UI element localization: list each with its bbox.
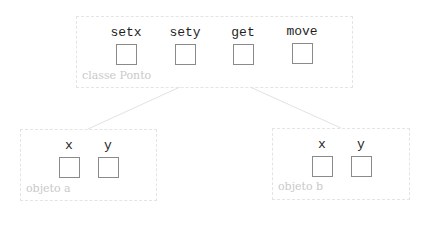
method-slot	[233, 44, 254, 65]
field-label: x	[49, 139, 89, 153]
method-sety: sety	[165, 26, 205, 65]
field-slot	[59, 157, 80, 178]
method-label: sety	[165, 26, 205, 40]
object-a-caption: objeto a	[26, 182, 71, 195]
method-slot	[175, 44, 196, 65]
object-b-caption: objeto b	[278, 180, 323, 193]
method-label: get	[223, 26, 263, 40]
class-caption: classe Ponto	[82, 69, 151, 82]
method-label: setx	[106, 26, 146, 40]
method-get: get	[223, 26, 263, 65]
field-y-object-a: y	[88, 139, 128, 178]
field-slot	[312, 156, 333, 177]
field-y-object-b: y	[341, 138, 381, 177]
method-move: move	[282, 25, 322, 64]
link-class-to-object-b	[250, 87, 341, 128]
method-slot	[116, 44, 137, 65]
method-setx: setx	[106, 26, 146, 65]
field-slot	[98, 157, 119, 178]
field-label: x	[302, 138, 342, 152]
field-label: y	[88, 139, 128, 153]
method-slot	[292, 43, 313, 64]
field-x-object-a: x	[49, 139, 89, 178]
link-class-to-object-a	[88, 87, 180, 129]
field-x-object-b: x	[302, 138, 342, 177]
field-slot	[351, 156, 372, 177]
field-label: y	[341, 138, 381, 152]
method-label: move	[282, 25, 322, 39]
